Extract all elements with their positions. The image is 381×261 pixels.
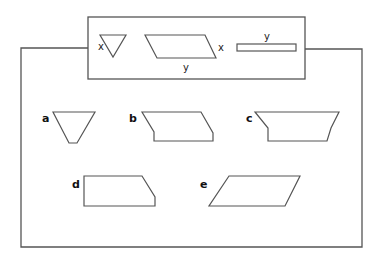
- pieces-box: [88, 17, 305, 79]
- option-d[interactable]: d: [72, 176, 155, 206]
- option-b[interactable]: b: [129, 112, 213, 141]
- option-a-label: a: [42, 112, 49, 125]
- option-d-label: d: [72, 178, 80, 191]
- option-e[interactable]: e: [200, 176, 300, 206]
- parallelogram-label-y: y: [183, 62, 189, 73]
- option-c-label: c: [246, 112, 253, 125]
- option-a[interactable]: a: [42, 112, 95, 143]
- parallelogram-label-x: x: [218, 42, 224, 53]
- triangle-label-x: x: [98, 41, 104, 52]
- option-e-label: e: [200, 178, 207, 191]
- option-b-label: b: [129, 112, 137, 125]
- figure-canvas: x x y y a b c d e: [0, 0, 381, 261]
- rectangle-label-y: y: [264, 31, 270, 42]
- option-c[interactable]: c: [246, 112, 339, 141]
